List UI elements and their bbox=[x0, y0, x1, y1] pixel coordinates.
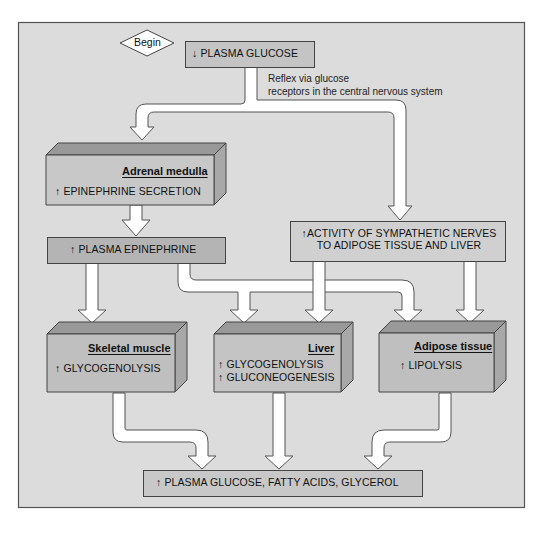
reflex-note-line1: Reflex via glucose bbox=[268, 72, 443, 85]
increase-arrow-icon: ↑ bbox=[400, 359, 405, 371]
increase-arrow-icon: ↑ bbox=[55, 362, 60, 374]
liver-gluconeogenesis: ↑ GLUCONEOGENESIS bbox=[218, 371, 335, 384]
sympathetic-label: ↑ACTIVITY OF SYMPATHETIC NERVES TO ADIPO… bbox=[294, 227, 504, 251]
reflex-note: Reflex via glucose receptors in the cent… bbox=[268, 72, 443, 98]
increase-arrow-icon: ↑ bbox=[156, 476, 161, 488]
skeletal-glycogenolysis-text: GLYCOGENOLYSIS bbox=[63, 362, 160, 374]
skeletal-glycogenolysis-label: ↑ GLYCOGENOLYSIS bbox=[55, 362, 161, 374]
increase-arrow-icon: ↑ bbox=[55, 185, 60, 197]
result-text: PLASMA GLUCOSE, FATTY ACIDS, GLYCEROL bbox=[164, 476, 398, 488]
sympathetic-line1: ↑ACTIVITY OF SYMPATHETIC NERVES bbox=[294, 227, 504, 239]
adipose-tissue-title: Adipose tissue bbox=[414, 340, 492, 352]
plasma-glucose-text: PLASMA GLUCOSE bbox=[200, 47, 298, 59]
liver-glycogenolysis: ↑ GLYCOGENOLYSIS bbox=[218, 358, 335, 371]
increase-arrow-icon: ↑ bbox=[70, 243, 75, 255]
decrease-arrow-icon: ↓ bbox=[192, 47, 197, 59]
plasma-epinephrine-text: PLASMA EPINEPHRINE bbox=[78, 243, 196, 255]
sympathetic-line2: TO ADIPOSE TISSUE AND LIVER bbox=[294, 239, 504, 251]
plasma-epinephrine-label: ↑ PLASMA EPINEPHRINE bbox=[70, 243, 196, 255]
liver-title: Liver bbox=[308, 342, 334, 354]
begin-label: Begin bbox=[134, 36, 161, 48]
lipolysis-label: ↑ LIPOLYSIS bbox=[400, 359, 462, 371]
skeletal-muscle-box bbox=[47, 322, 187, 392]
result-label: ↑ PLASMA GLUCOSE, FATTY ACIDS, GLYCEROL bbox=[156, 476, 399, 488]
increase-arrow-icon: ↑ bbox=[218, 358, 223, 370]
plasma-glucose-label: ↓ PLASMA GLUCOSE bbox=[192, 47, 298, 59]
lipolysis-text: LIPOLYSIS bbox=[408, 359, 462, 371]
skeletal-muscle-title: Skeletal muscle bbox=[88, 342, 171, 354]
adipose-tissue-box bbox=[379, 321, 506, 392]
liver-processes-label: ↑ GLYCOGENOLYSIS ↑ GLUCONEOGENESIS bbox=[218, 358, 335, 384]
epinephrine-secretion-label: ↑ EPINEPHRINE SECRETION bbox=[55, 185, 201, 197]
increase-arrow-icon: ↑ bbox=[218, 371, 223, 383]
adrenal-medulla-title: Adrenal medulla bbox=[122, 165, 208, 177]
epinephrine-secretion-text: EPINEPHRINE SECRETION bbox=[63, 185, 200, 197]
reflex-note-line2: receptors in the central nervous system bbox=[268, 85, 443, 98]
